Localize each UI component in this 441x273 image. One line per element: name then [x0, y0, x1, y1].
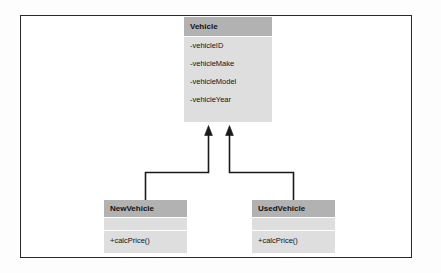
uml-attribute: -vehicleYear	[184, 91, 272, 109]
uml-attribute: -vehicleModel	[184, 73, 272, 91]
uml-operation: +calcPrice()	[252, 231, 335, 250]
uml-attributes-usedvehicle	[252, 217, 335, 230]
uml-class-usedvehicle[interactable]: UsedVehicle +calcPrice()	[252, 200, 335, 253]
uml-class-name-newvehicle: NewVehicle	[104, 200, 187, 217]
uml-class-name-usedvehicle: UsedVehicle	[252, 200, 335, 217]
uml-class-diagram: Vehicle -vehicleID -vehicleMake -vehicle…	[0, 0, 441, 273]
arrowhead-icon	[205, 126, 213, 136]
uml-operation: +calcPrice()	[104, 231, 187, 250]
uml-operations-newvehicle: +calcPrice()	[104, 230, 187, 250]
uml-attributes-newvehicle	[104, 217, 187, 230]
uml-attribute: -vehicleMake	[184, 55, 272, 73]
arrowhead-icon	[226, 126, 234, 136]
uml-class-name-vehicle: Vehicle	[184, 17, 272, 36]
uml-attribute: -vehicleID	[184, 37, 272, 55]
uml-operations-usedvehicle: +calcPrice()	[252, 230, 335, 250]
uml-attributes-vehicle: -vehicleID -vehicleMake -vehicleModel -v…	[184, 36, 272, 109]
generalization-newvehicle-to-vehicle	[146, 126, 213, 201]
generalization-usedvehicle-to-vehicle	[226, 126, 294, 201]
uml-class-vehicle[interactable]: Vehicle -vehicleID -vehicleMake -vehicle…	[184, 17, 272, 122]
uml-class-newvehicle[interactable]: NewVehicle +calcPrice()	[104, 200, 187, 253]
